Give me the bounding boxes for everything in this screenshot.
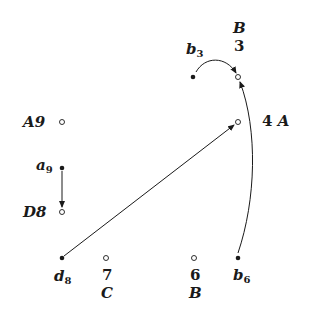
node-B6-open bbox=[192, 256, 197, 261]
label-b6-main: b bbox=[233, 266, 244, 284]
label-B3-top: B bbox=[233, 21, 246, 36]
edge-d8-to-4A bbox=[64, 125, 234, 256]
label-a9-sub: 9 bbox=[46, 164, 53, 175]
node-D8-open bbox=[60, 210, 65, 215]
label-4A-letter: A bbox=[278, 112, 290, 130]
edge-b3-to-B3 bbox=[196, 60, 236, 73]
label-B6-top: 6 bbox=[190, 268, 200, 283]
node-b3-filled bbox=[191, 75, 196, 80]
label-B3-bottom: 3 bbox=[234, 39, 244, 54]
node-A9-open bbox=[60, 120, 65, 125]
label-d8-main: d bbox=[54, 267, 65, 285]
label-A9: A9 bbox=[23, 115, 45, 130]
label-b3-main: b bbox=[186, 40, 197, 58]
label-d8: d8 bbox=[54, 269, 71, 286]
label-b6: b6 bbox=[233, 268, 250, 285]
node-B3-open bbox=[236, 75, 241, 80]
label-b3: b3 bbox=[186, 42, 203, 59]
label-d8-sub: 8 bbox=[65, 275, 72, 286]
label-4A-number: 4 bbox=[262, 112, 272, 130]
node-C7-open bbox=[104, 256, 109, 261]
label-b3-sub: 3 bbox=[197, 48, 204, 59]
label-C7-bottom: C bbox=[101, 286, 113, 301]
node-d8-filled bbox=[60, 256, 65, 261]
label-a9: a9 bbox=[36, 158, 53, 175]
edge-b6-to-B3 bbox=[238, 82, 253, 253]
node-b6-filled bbox=[236, 256, 241, 261]
move-diagram: b3 B 3 A9 4 A a9 D8 d8 7 C 6 B b6 bbox=[0, 0, 309, 323]
node-a9-filled bbox=[60, 166, 65, 171]
label-D8: D8 bbox=[23, 205, 46, 220]
label-4A: 4 A bbox=[262, 114, 289, 129]
label-b6-sub: 6 bbox=[244, 274, 251, 285]
label-C7-top: 7 bbox=[102, 268, 112, 283]
node-4A-open bbox=[236, 120, 241, 125]
label-B6-bottom: B bbox=[189, 286, 202, 301]
label-a9-main: a bbox=[36, 156, 46, 174]
